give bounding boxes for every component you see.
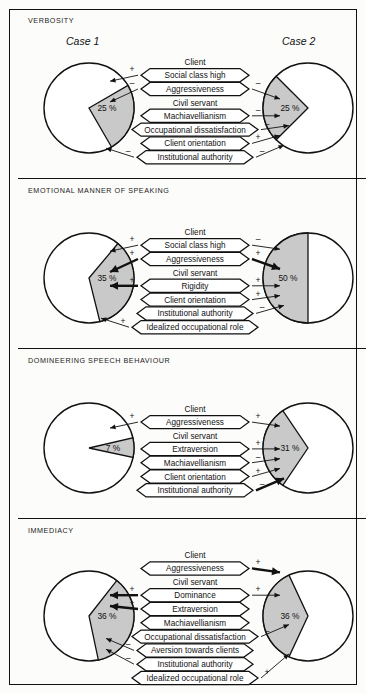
factor-label: Aggressiveness: [166, 255, 224, 264]
panel-2: DOMINEERING SPEECH BEHAVIOUR 7 %31 %Clie…: [18, 349, 366, 519]
path-sign-right: +: [256, 248, 261, 258]
pie-case2-value: 36 %: [280, 611, 300, 621]
factor-box: Machiavellianism: [141, 616, 249, 629]
path-sign-right: –: [256, 78, 261, 88]
factor-label: Extraversion: [172, 445, 218, 454]
factor-label: Aggressiveness: [166, 85, 224, 94]
pie-case1-value: 25 %: [97, 103, 117, 113]
panel-diagram-1: 35 %50 %ClientCivil servantSocial class …: [18, 179, 366, 349]
factor-label: Client orientation: [164, 473, 226, 482]
path-arrow-right: –: [256, 478, 284, 491]
factor-label: Machiavellianism: [164, 459, 227, 468]
group-label-civil-servant: Civil servant: [173, 99, 218, 108]
figure-page: VERBOSITY Case 1 Case 2 25 %25 %ClientCi…: [0, 0, 366, 694]
path-arrow-right: –: [256, 145, 284, 157]
pie-case1-value: 35 %: [97, 273, 117, 283]
path-sign-left: –: [130, 78, 135, 88]
path-sign-right: +: [265, 667, 270, 677]
path-sign-right: +: [256, 289, 261, 299]
path-sign-right: +: [256, 275, 261, 285]
factor-box: Extraversion: [141, 442, 249, 455]
factor-label: Occupational dissatisfaction: [144, 633, 246, 642]
panel-diagram-2: 7 %31 %ClientCivil servantAggressiveness…: [18, 349, 366, 519]
factor-label: Machiavellianism: [164, 112, 227, 121]
path-sign-right: +: [256, 466, 261, 476]
factor-box: Social class high: [141, 69, 249, 82]
factor-box: Machiavellianism: [141, 456, 249, 469]
factor-label: Institutional authority: [157, 486, 233, 495]
factor-label: Institutional authority: [157, 309, 233, 318]
group-label-civil-servant: Civil servant: [173, 432, 218, 441]
factor-label: Rigidity: [182, 282, 210, 291]
path-sign-right: –: [256, 452, 261, 462]
path-arrow-right: +: [261, 654, 289, 678]
factor-box: Occupational dissatisfaction: [132, 630, 258, 643]
pie-case2: [263, 63, 353, 153]
factor-label: Aggressiveness: [166, 564, 224, 573]
factor-box: Institutional authority: [137, 658, 253, 671]
path-sign-left: +: [130, 411, 135, 421]
factor-box: Client orientation: [141, 470, 249, 483]
factor-box: Rigidity: [141, 279, 249, 292]
path-sign-right: –: [260, 146, 265, 156]
path-sign-right: +: [256, 438, 261, 448]
factor-box: Aggressiveness: [141, 82, 249, 95]
factor-box: Occupational dissatisfaction: [132, 123, 258, 136]
path-sign-left: +: [130, 598, 135, 608]
factor-label: Institutional authority: [157, 153, 233, 162]
factor-label: Extraversion: [172, 605, 218, 614]
path-sign-right: –: [265, 626, 270, 636]
pie-case2: [263, 233, 353, 323]
factor-label: Social class high: [165, 71, 226, 80]
path-sign-right: –: [265, 119, 270, 129]
panel-3: IMMEDIACY 36 %36 %ClientCivil servantAgg…: [18, 519, 366, 685]
factor-box: Extraversion: [141, 602, 249, 615]
factor-box: Aggressiveness: [141, 416, 249, 429]
path-arrow-right: +: [252, 557, 280, 575]
factor-box: Idealized occupational role: [132, 671, 258, 684]
path-sign-right: –: [256, 234, 261, 244]
factor-box: Aversion towards clients: [137, 644, 253, 657]
path-sign-right: –: [256, 105, 261, 115]
panel-1: EMOTIONAL MANNER OF SPEAKING 35 %50 %Cli…: [18, 179, 366, 349]
pie-case1: [44, 403, 134, 493]
group-label-client: Client: [185, 58, 207, 67]
factor-label: Client orientation: [164, 296, 226, 305]
group-label-civil-servant: Civil servant: [173, 269, 218, 278]
group-label-client: Client: [185, 228, 207, 237]
factor-box: Client orientation: [141, 293, 249, 306]
path-arrow-left: +: [101, 316, 129, 327]
path-sign-left: –: [126, 639, 131, 649]
pie-case1: [44, 233, 134, 323]
factor-label: Machiavellianism: [164, 619, 227, 628]
pie-case1: [44, 63, 134, 153]
factor-box: Idealized occupational role: [132, 321, 258, 334]
factor-box: Institutional authority: [137, 484, 253, 497]
panel-diagram-0: 25 %25 %ClientCivil servantSocial class …: [18, 9, 366, 179]
factor-label: Idealized occupational role: [147, 323, 244, 332]
path-sign-left: +: [130, 275, 135, 285]
factor-box: Aggressiveness: [141, 562, 249, 575]
group-label-civil-servant: Civil servant: [173, 578, 218, 587]
factor-box: Machiavellianism: [141, 109, 249, 122]
factor-box: Social class high: [141, 239, 249, 252]
panel-0: VERBOSITY Case 1 Case 2 25 %25 %ClientCi…: [18, 9, 366, 179]
group-label-client: Client: [185, 551, 207, 560]
path-sign-right: –: [260, 479, 265, 489]
path-sign-left: +: [130, 584, 135, 594]
factor-label: Institutional authority: [157, 660, 233, 669]
factor-box: Institutional authority: [137, 307, 253, 320]
path-sign-left: +: [130, 248, 135, 258]
path-sign-left: –: [126, 146, 131, 156]
path-sign-right: +: [256, 132, 261, 142]
pie-case2-value: 31 %: [280, 443, 300, 453]
factor-label: Idealized occupational role: [147, 674, 244, 683]
factor-box: Dominance: [141, 589, 249, 602]
factor-label: Aversion towards clients: [151, 646, 239, 655]
path-sign-left: –: [126, 653, 131, 663]
group-label-client: Client: [185, 405, 207, 414]
pie-case2-value: 25 %: [280, 103, 300, 113]
pie-case1-value: 36 %: [97, 611, 117, 621]
path-sign-left: +: [121, 316, 126, 326]
path-sign-right: +: [256, 411, 261, 421]
